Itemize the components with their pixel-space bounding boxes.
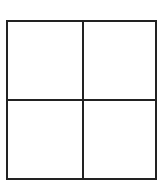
grid-cell-bottom-right	[84, 101, 155, 178]
grid-cell-bottom-left	[8, 101, 82, 178]
grid-outer-border	[6, 20, 157, 180]
grid-cell-top-right	[84, 22, 155, 99]
diagram-canvas	[0, 0, 161, 184]
grid-cell-top-left	[8, 22, 82, 99]
horizontal-divider	[8, 99, 155, 101]
